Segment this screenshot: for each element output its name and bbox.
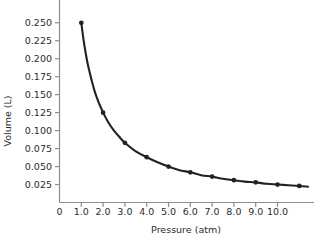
data-point — [210, 174, 215, 179]
data-point-markers — [79, 20, 302, 188]
y-axis-title: Volume (L) — [0, 0, 16, 242]
data-point — [297, 184, 302, 189]
data-point — [275, 182, 280, 187]
tick-marks — [55, 23, 278, 207]
data-point — [123, 140, 128, 145]
data-point — [232, 178, 237, 183]
data-point — [79, 20, 84, 25]
data-point — [101, 110, 106, 115]
x-axis-title: Pressure (atm) — [58, 224, 314, 235]
data-point — [166, 164, 171, 169]
x-axis-tick-labels: 01.02.03.04.05.06.07.08.09.010.0 — [0, 206, 314, 220]
data-curve — [81, 23, 308, 187]
x-tick-label: 10.0 — [258, 206, 298, 217]
data-point — [253, 180, 258, 185]
boyles-law-chart: 0.0250.0500.0750.1000.1250.1500.1750.200… — [0, 0, 314, 242]
data-point — [144, 155, 149, 160]
data-point — [188, 170, 193, 175]
